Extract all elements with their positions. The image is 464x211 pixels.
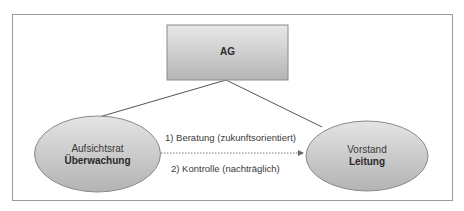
node-vorstand-title: Vorstand (306, 144, 428, 156)
connector-ag-vorstand (226, 80, 322, 127)
node-ag: AG (167, 46, 288, 58)
connector-ag-aufsichtsrat (99, 80, 226, 117)
node-aufsichtsrat-role: Überwachung (35, 155, 160, 167)
relation-label-kontrolle: 2) Kontrolle (nachträglich) (171, 163, 280, 174)
node-ag-label: AG (220, 46, 235, 57)
node-vorstand: Vorstand Leitung (306, 144, 428, 168)
node-aufsichtsrat: Aufsichtsrat Überwachung (35, 143, 160, 167)
relation-label-beratung: 1) Beratung (zukunftsorientiert) (165, 132, 296, 143)
node-vorstand-role: Leitung (306, 156, 428, 168)
node-aufsichtsrat-title: Aufsichtsrat (35, 143, 160, 155)
diagram-canvas (0, 0, 464, 211)
